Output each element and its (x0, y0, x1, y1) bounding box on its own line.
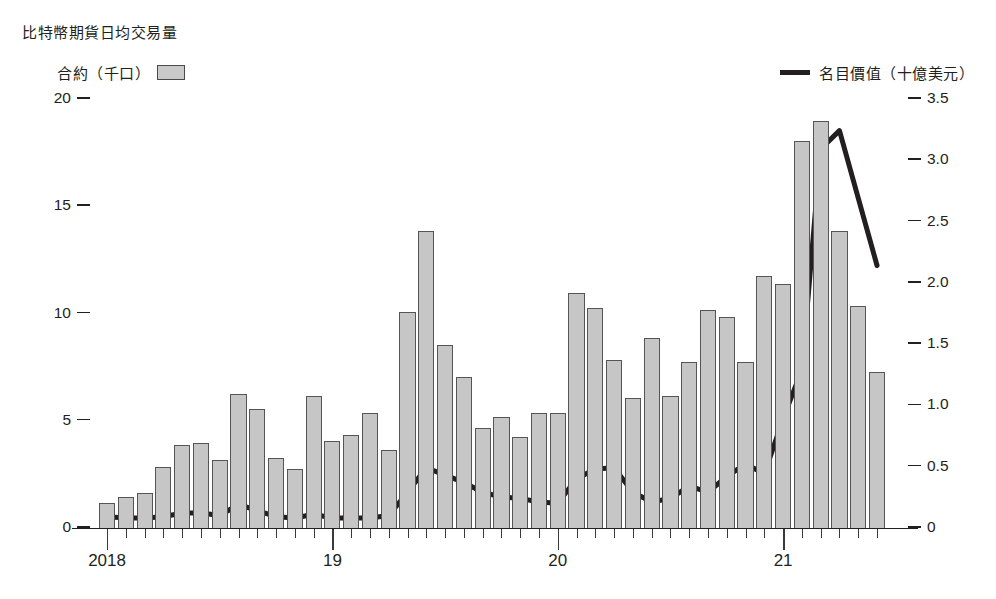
left-axis-tick: 20 (20, 89, 90, 107)
bar (193, 443, 209, 529)
x-axis-minor-tick (670, 529, 671, 538)
bar (719, 317, 735, 529)
right-axis-tick: 0.5 (908, 457, 949, 475)
bar (756, 276, 772, 529)
right-tick-label: 3.0 (927, 150, 949, 167)
bar (644, 338, 660, 529)
bar (568, 293, 584, 529)
bar (681, 362, 697, 529)
x-axis-minor-tick (408, 529, 409, 538)
x-axis-minor-tick (689, 529, 690, 538)
x-axis-minor-tick (802, 529, 803, 538)
left-axis-tick: 0 (20, 518, 90, 536)
tick-dash-icon (908, 404, 921, 406)
right-axis-tick: 1.0 (908, 395, 949, 413)
right-axis-tick: 2.0 (908, 273, 949, 291)
x-axis-minor-tick (314, 529, 315, 538)
left-axis-tick: 10 (20, 304, 90, 322)
x-axis-major-tick (558, 529, 559, 550)
x-axis-minor-tick (295, 529, 296, 538)
bar (174, 445, 190, 529)
bar (155, 467, 171, 529)
right-axis-tick: 3.0 (908, 150, 949, 168)
x-axis-baseline (72, 528, 918, 529)
x-axis-minor-tick (351, 529, 352, 538)
right-tick-label: 2.5 (927, 212, 949, 229)
x-axis-minor-tick (839, 529, 840, 538)
bar (249, 409, 265, 529)
left-tick-label: 20 (54, 89, 71, 107)
left-axis-tick: 15 (20, 196, 90, 214)
x-axis-minor-tick (633, 529, 634, 538)
bar (212, 460, 228, 529)
right-tick-label: 2.0 (927, 273, 949, 290)
x-axis-minor-tick (426, 529, 427, 538)
x-axis-minor-tick (821, 529, 822, 538)
tick-dash-icon (908, 97, 921, 99)
right-tick-label: 0.5 (927, 457, 949, 474)
bar (831, 231, 847, 529)
bar (268, 458, 284, 529)
tick-dash-icon (908, 220, 921, 222)
bar (399, 312, 415, 529)
legend-line-label: 名目價值（十億美元） (819, 62, 974, 83)
x-axis-minor-tick (257, 529, 258, 538)
x-axis-minor-tick (746, 529, 747, 538)
right-axis-tick: 3.5 (908, 89, 949, 107)
x-axis-label: 21 (774, 551, 793, 571)
x-axis-minor-tick (877, 529, 878, 538)
tick-dash-icon (77, 97, 90, 99)
right-axis-tick: 0 (908, 518, 936, 536)
left-tick-label: 10 (54, 304, 71, 322)
right-tick-label: 0 (927, 518, 936, 535)
x-axis-label: 19 (323, 551, 342, 571)
x-axis-minor-tick (539, 529, 540, 538)
bar (493, 417, 509, 529)
x-axis-minor-tick (858, 529, 859, 538)
x-axis-minor-tick (145, 529, 146, 538)
x-axis-minor-tick (163, 529, 164, 538)
bar (437, 345, 453, 529)
x-axis-minor-tick (182, 529, 183, 538)
bar-swatch-icon (157, 65, 185, 80)
bar (850, 306, 866, 529)
bar (287, 469, 303, 529)
tick-dash-icon (908, 342, 921, 344)
x-axis-minor-tick (464, 529, 465, 538)
x-axis-minor-tick (239, 529, 240, 538)
x-axis-minor-tick (276, 529, 277, 538)
bar (775, 284, 791, 529)
right-tick-label: 3.5 (927, 89, 949, 106)
bar (230, 394, 246, 529)
bar (343, 435, 359, 529)
bar (418, 231, 434, 529)
bar (587, 308, 603, 529)
x-axis-minor-tick (577, 529, 578, 538)
x-axis-major-tick (783, 529, 784, 550)
tick-dash-icon (77, 204, 90, 206)
tick-dash-icon (77, 419, 90, 421)
right-tick-label: 1.5 (927, 334, 949, 351)
x-axis-minor-tick (501, 529, 502, 538)
x-axis-minor-tick (445, 529, 446, 538)
bitcoin-futures-volume-chart: 比特幣期貨日均交易量 合約（千口） 名目價值（十億美元） 05101520 00… (0, 0, 996, 599)
bar (381, 450, 397, 529)
tick-dash-icon (908, 526, 921, 528)
x-axis-minor-tick (201, 529, 202, 538)
legend-line: 名目價值（十億美元） (780, 62, 974, 83)
bar (118, 497, 134, 529)
left-tick-label: 15 (54, 196, 71, 214)
x-axis-minor-tick (520, 529, 521, 538)
x-axis-minor-tick (220, 529, 221, 538)
x-axis-major-tick (332, 529, 333, 550)
line-swatch-icon (780, 70, 810, 75)
bar (306, 396, 322, 529)
legend-bars: 合約（千口） (57, 62, 185, 83)
bar (456, 377, 472, 529)
x-axis-minor-tick (764, 529, 765, 538)
bar (550, 413, 566, 529)
bar (794, 141, 810, 529)
tick-dash-icon (908, 281, 921, 283)
x-axis-major-tick (107, 529, 108, 550)
bar (362, 413, 378, 529)
